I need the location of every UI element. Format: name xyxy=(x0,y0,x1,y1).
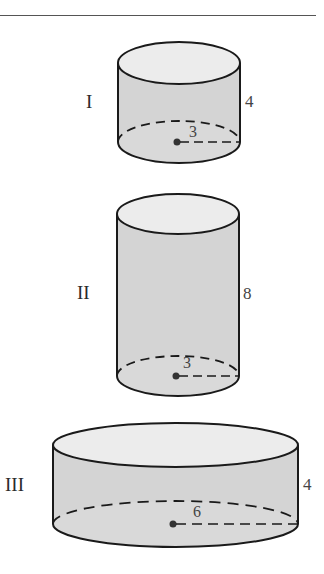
cylinder-iii-radius: 6 xyxy=(193,504,201,520)
cylinder-ii-label: II xyxy=(77,283,90,302)
cylinder-i-height: 4 xyxy=(245,93,254,110)
cylinder-i-radius: 3 xyxy=(189,124,197,140)
cylinder-i xyxy=(118,42,240,163)
cylinder-iii xyxy=(53,423,298,547)
cylinder-iii-height: 4 xyxy=(303,476,312,493)
cylinder-iii-label: III xyxy=(5,475,24,494)
cylinder-ii-radius: 3 xyxy=(183,355,191,371)
cylinder-ii-height: 8 xyxy=(243,285,252,302)
cylinder-ii xyxy=(117,194,239,396)
cylinders-diagram xyxy=(0,0,324,574)
cylinder-i-label: I xyxy=(86,92,92,111)
